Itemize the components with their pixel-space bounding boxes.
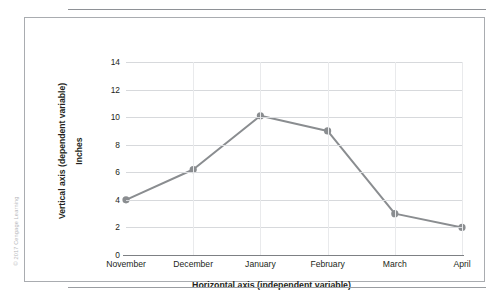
gridline-vertical (395, 62, 396, 255)
y-axis-tick-label: 14 (111, 57, 120, 67)
x-axis-tick-label: April (453, 259, 470, 269)
gridline-horizontal (126, 62, 462, 63)
copyright-notice: © 2017 Cengage Learning (13, 191, 19, 271)
plot-area: 02468101214NovemberDecemberJanuaryFebrua… (126, 62, 462, 255)
gridline-vertical (462, 62, 463, 255)
gridline-horizontal (126, 90, 462, 91)
gridline-horizontal (126, 200, 462, 201)
gridline-horizontal (126, 117, 462, 118)
figure-frame: Vertical axis (dependent variable) Inche… (24, 17, 485, 282)
y-axis-unit-label: Inches (74, 91, 84, 211)
gridline-vertical (193, 62, 194, 255)
gridline-horizontal (126, 172, 462, 173)
y-axis-tick-label: 4 (115, 195, 120, 205)
gridline-vertical (260, 62, 261, 255)
x-axis-title: Horizontal axis (independent variable) (25, 280, 493, 290)
page-rule-bottom (68, 287, 486, 288)
gridline-horizontal (126, 227, 462, 228)
gridline-vertical (328, 62, 329, 255)
x-axis-tick-label: January (245, 259, 276, 269)
x-axis-line (123, 255, 464, 256)
x-axis-tick-label: November (106, 259, 146, 269)
y-axis-tick-label: 8 (115, 140, 120, 150)
y-axis-tick-label: 10 (111, 112, 120, 122)
gridline-horizontal (126, 145, 462, 146)
page-rule-top (68, 9, 486, 10)
y-axis-tick-label: 6 (115, 167, 120, 177)
x-axis-tick-label: December (173, 259, 213, 269)
y-axis-title: Vertical axis (dependent variable) (57, 56, 67, 246)
line-series (126, 62, 462, 255)
y-axis-tick-label: 12 (111, 85, 120, 95)
x-axis-tick-label: March (383, 259, 407, 269)
y-axis-tick-label: 2 (115, 222, 120, 232)
x-axis-tick-label: February (310, 259, 344, 269)
